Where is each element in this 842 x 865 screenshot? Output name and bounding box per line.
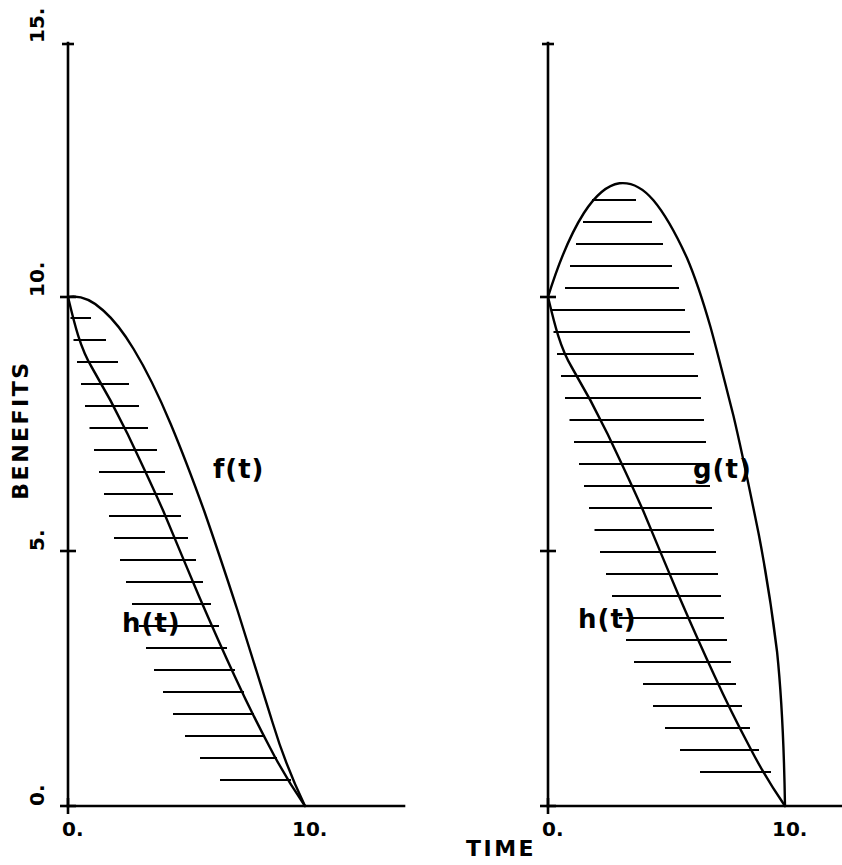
right-annotation-h-t: h(t) [578,604,637,634]
left-panel: 15. 10. 5. 0. BENEFITS 0. 10. [8,8,404,841]
left-annotation-h-t: h(t) [122,608,181,638]
left-ytick-label-0: 0. [25,784,49,806]
left-xtick-label-0: 0. [62,817,84,841]
left-ytick-label-5: 5. [25,529,49,551]
right-panel: 0. 10. [540,43,842,841]
curve-g-t [548,183,785,806]
right-annotation-g-t: g(t) [693,454,752,484]
curve-f-t [68,297,305,806]
plot-svg: 15. 10. 5. 0. BENEFITS 0. 10. [0,0,842,865]
left-ytick-label-15: 15. [25,8,49,43]
y-axis-title: BENEFITS [8,360,33,499]
figure-canvas: 15. 10. 5. 0. BENEFITS 0. 10. [0,0,842,865]
right-xtick-label-0: 0. [542,817,564,841]
x-axis-title: TIME [466,836,536,861]
right-hatch-region [551,200,771,772]
left-xtick-label-10: 10. [292,817,327,841]
right-xtick-label-10: 10. [772,817,807,841]
left-annotation-f-t: f(t) [213,454,265,484]
left-ytick-label-10: 10. [25,262,49,297]
curve-h-t-left [68,297,305,806]
